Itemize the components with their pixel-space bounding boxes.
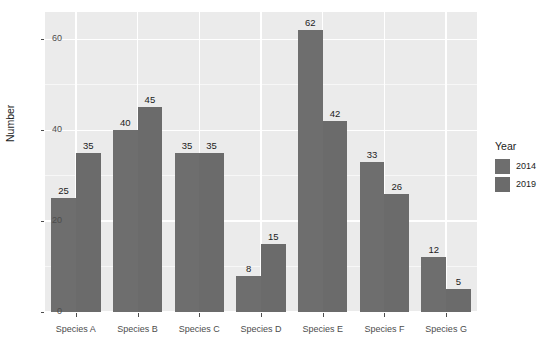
y-axis-tick-label: 60	[52, 33, 62, 43]
bar	[138, 107, 163, 312]
x-axis-tick-mark	[384, 313, 385, 317]
y-axis-title: Number	[4, 105, 16, 142]
legend-item-2014[interactable]: 2014	[495, 157, 536, 175]
x-axis-tick-mark	[138, 313, 139, 317]
bar	[261, 244, 286, 312]
y-axis-tick-mark	[41, 39, 45, 40]
bar-value-label: 33	[360, 149, 385, 160]
y-axis-tick-label: 20	[52, 215, 62, 225]
bar	[236, 276, 261, 312]
y-axis-tick-mark	[41, 130, 45, 131]
x-axis-tick-label: Species A	[45, 324, 107, 334]
x-axis-tick-mark	[323, 313, 324, 317]
x-axis-tick-label: Species C	[168, 324, 230, 334]
bar-value-label: 15	[261, 231, 286, 242]
y-axis-tick-mark	[41, 312, 45, 313]
x-axis-tick-label: Species F	[354, 324, 416, 334]
bar	[323, 121, 348, 312]
bar-value-label: 26	[384, 181, 409, 192]
bar	[360, 162, 385, 312]
y-axis-tick-label: 40	[52, 124, 62, 134]
bar-value-label: 25	[51, 185, 76, 196]
bar	[199, 153, 224, 312]
bar-value-label: 12	[421, 244, 446, 255]
x-axis-tick-label: Species B	[107, 324, 169, 334]
chart-legend: Year 2014 2019	[495, 140, 536, 193]
legend-label-2014: 2014	[516, 161, 536, 171]
legend-label-2019: 2019	[516, 179, 536, 189]
bar	[113, 130, 138, 312]
bar	[298, 30, 323, 312]
x-axis-tick-label: Species D	[230, 324, 292, 334]
plot-panel	[45, 12, 477, 312]
bar-value-label: 8	[236, 263, 261, 274]
bar-value-label: 42	[323, 108, 348, 119]
x-axis-tick-label: Species G	[415, 324, 477, 334]
x-axis-tick-label: Species E	[292, 324, 354, 334]
x-axis-tick-mark	[76, 313, 77, 317]
y-axis-tick-label: 0	[57, 306, 62, 316]
x-axis-tick-mark	[261, 313, 262, 317]
bar	[421, 257, 446, 312]
bar-value-label: 35	[76, 140, 101, 151]
bar	[175, 153, 200, 312]
legend-item-2019[interactable]: 2019	[495, 175, 536, 193]
y-axis-tick-mark	[41, 221, 45, 222]
bar-value-label: 35	[175, 140, 200, 151]
x-axis-tick-mark	[199, 313, 200, 317]
bar-value-label: 45	[138, 94, 163, 105]
bar-value-label: 62	[298, 17, 323, 28]
bar-value-label: 35	[199, 140, 224, 151]
legend-swatch-2019	[495, 177, 510, 192]
legend-title: Year	[495, 140, 536, 152]
bar	[384, 194, 409, 312]
x-axis-tick-mark	[446, 313, 447, 317]
bar	[76, 153, 101, 312]
bar-value-label: 5	[446, 276, 471, 287]
bar	[446, 289, 471, 312]
bar-value-label: 40	[113, 117, 138, 128]
legend-swatch-2014	[495, 159, 510, 174]
